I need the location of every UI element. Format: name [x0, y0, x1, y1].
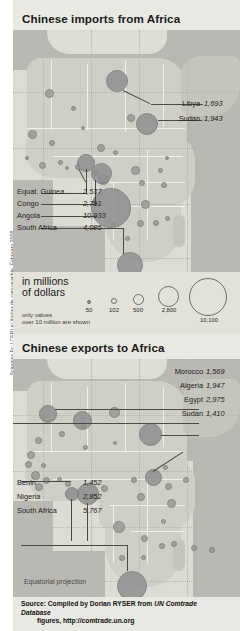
bubble-small[interactable] — [165, 483, 172, 490]
label-south-africa-name: South Africa — [17, 223, 57, 232]
label-equat-guinea-value: 2,537 — [83, 187, 102, 196]
bubble-small[interactable] — [65, 166, 69, 170]
bubble-small[interactable] — [183, 477, 189, 483]
label-algeria-name: Algeria — [180, 381, 203, 390]
bubble-small[interactable] — [45, 89, 54, 98]
bubble-small[interactable] — [141, 535, 148, 542]
legend-note: only values over 10 million are shown — [22, 312, 90, 327]
legend-note-line2: over 10 million are shown — [22, 319, 90, 326]
bubble-small[interactable] — [101, 485, 108, 492]
legend-label-102: 102 — [102, 307, 126, 313]
label-morocco-value: 1,569 — [206, 367, 225, 376]
bubble-small[interactable] — [165, 156, 169, 160]
infographic-page: Sciences Po / CERI et Atelier de cartogr… — [0, 0, 240, 631]
leader-line-benin — [71, 499, 72, 541]
label-benin-name: Benin — [17, 478, 36, 487]
bubble-sudan[interactable] — [136, 113, 158, 135]
bubble-small[interactable] — [137, 493, 145, 501]
bubble-egypt[interactable] — [139, 423, 162, 446]
leader-line-south-africa — [123, 228, 124, 254]
sea-indian-ocean — [193, 447, 240, 597]
bubble-small[interactable] — [35, 483, 43, 491]
bubble-small[interactable] — [161, 519, 166, 524]
country-border — [125, 60, 126, 132]
bubble-small[interactable] — [161, 182, 167, 188]
graticule-line — [187, 30, 188, 272]
bubble-small[interactable] — [113, 441, 117, 445]
country-border — [53, 479, 183, 480]
legend: in millions of dollars only values over … — [13, 272, 240, 334]
bubble-small[interactable] — [141, 555, 146, 560]
label-south-africa-exports-value: 5,767 — [83, 506, 102, 515]
bubble-small[interactable] — [119, 555, 125, 561]
bubble-small[interactable] — [131, 477, 137, 483]
label-benin-value: 1,452 — [83, 478, 102, 487]
bubble-south-africa-exports[interactable] — [117, 571, 147, 597]
legend-circle-102 — [111, 298, 117, 304]
bubble-small[interactable] — [25, 156, 29, 160]
legend-label-500: 500 — [126, 307, 150, 313]
bubble-small[interactable] — [209, 547, 215, 553]
bubble-small[interactable] — [83, 445, 88, 450]
projection-note: Equatorial projection — [24, 578, 86, 585]
country-border — [163, 64, 164, 126]
graticule-line — [91, 30, 92, 272]
bubble-small[interactable] — [35, 437, 42, 444]
country-border — [125, 383, 126, 453]
bubble-small[interactable] — [41, 463, 46, 468]
bubble-small[interactable] — [137, 220, 144, 227]
bubble-small[interactable] — [71, 106, 76, 111]
bubble-small[interactable] — [153, 220, 159, 226]
label-libya-name: Libya — [182, 99, 200, 108]
bubble-small[interactable] — [158, 168, 163, 173]
bubble-morocco[interactable] — [39, 405, 57, 423]
bubble-small[interactable] — [59, 431, 65, 437]
bubble-small[interactable] — [39, 162, 46, 169]
map-title-imports: Chinese imports from Africa — [22, 12, 180, 25]
label-sudan-value: 1,943 — [204, 114, 223, 123]
country-border — [163, 387, 164, 447]
legend-title: in millions of dollars — [22, 276, 69, 298]
bubble-small[interactable] — [131, 166, 140, 175]
bubble-small[interactable] — [165, 216, 170, 221]
bubble-small[interactable] — [49, 140, 55, 146]
bubble-small[interactable] — [28, 130, 37, 139]
country-border — [131, 206, 185, 207]
bubble-south-africa[interactable] — [117, 252, 143, 272]
bubble-small[interactable] — [81, 126, 85, 130]
bubble-small[interactable] — [58, 160, 63, 165]
bubble-small[interactable] — [113, 150, 118, 155]
graticule-line — [13, 148, 240, 149]
bubble-libya[interactable] — [106, 70, 128, 92]
graticule-line — [139, 30, 140, 272]
label-egypt-name: Egypt — [184, 395, 203, 404]
label-sudan-exports-value: 1,410 — [206, 409, 225, 418]
bubble-small[interactable] — [27, 451, 35, 459]
label-congo-value: 2,791 — [83, 199, 102, 208]
bubble-small[interactable] — [191, 545, 197, 551]
leader-line-algeria — [13, 423, 199, 424]
bubble-small[interactable] — [127, 114, 135, 122]
bubble-small[interactable] — [113, 521, 125, 533]
graticule-line — [13, 527, 240, 528]
bubble-small[interactable] — [167, 499, 176, 508]
legend-circle-2800 — [158, 286, 179, 307]
bubble-small[interactable] — [25, 461, 32, 468]
label-equat-guinea-name: Equat. Guinea — [17, 187, 64, 196]
label-algeria-value: 1,947 — [206, 381, 225, 390]
country-border — [113, 505, 114, 563]
leader-line-south-africa-exports — [21, 545, 128, 546]
legend-title-line2: of dollars — [22, 287, 69, 298]
bubble-small[interactable] — [163, 465, 168, 470]
bubble-small[interactable] — [171, 541, 177, 547]
bubble-small[interactable] — [97, 144, 105, 152]
country-border — [87, 64, 88, 130]
bubble-small[interactable] — [141, 200, 150, 209]
graticule-line — [13, 471, 240, 472]
bubble-small[interactable] — [125, 236, 130, 241]
bubble-algeria[interactable] — [73, 411, 92, 430]
leader-line-morocco — [55, 409, 199, 410]
map-imports[interactable] — [13, 30, 240, 272]
bubble-small[interactable] — [139, 180, 145, 186]
bubble-small[interactable] — [159, 543, 165, 549]
